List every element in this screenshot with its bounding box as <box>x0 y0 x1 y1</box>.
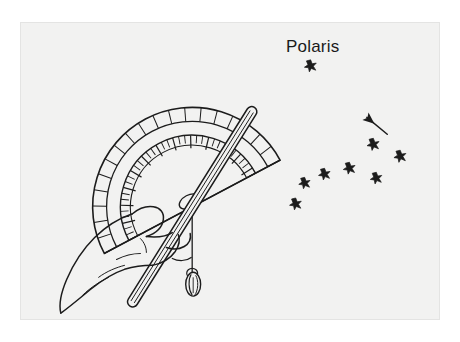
star-mizar <box>299 177 310 188</box>
hand-crease-1 <box>117 253 141 259</box>
hand-little-finger <box>172 257 191 260</box>
figure-panel: Polaris <box>20 22 440 320</box>
constellation-big-dipper <box>290 138 406 210</box>
astrolabe-illustration <box>21 23 439 319</box>
polaris-star <box>304 60 316 72</box>
star-megrez <box>343 162 355 174</box>
star-phecda <box>370 172 381 184</box>
pointer-arrow-icon <box>367 117 387 134</box>
illustration-root: Polaris <box>0 0 460 342</box>
star-merak <box>394 150 406 162</box>
star-alkaid <box>290 198 302 210</box>
sky-group <box>290 60 406 210</box>
star-alioth <box>319 168 330 180</box>
protractor-body <box>58 72 280 253</box>
hand-crease-4 <box>140 239 146 253</box>
polaris-label: Polaris <box>286 37 339 57</box>
astrolabe-group <box>58 72 281 253</box>
star-dubhe <box>367 138 379 150</box>
